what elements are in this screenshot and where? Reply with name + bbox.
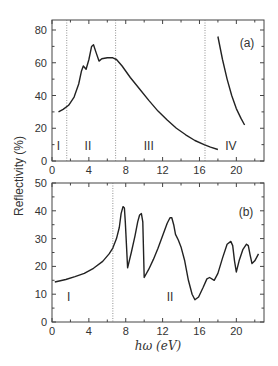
y-tick-label: 60 [35, 57, 47, 69]
region-label: I [57, 139, 60, 153]
x-axis-title: hω (eV) [135, 339, 182, 353]
y-tick-label: 0 [41, 155, 47, 167]
region-label: II [167, 290, 174, 304]
x-tick-label: 4 [86, 325, 92, 337]
y-tick-label: 30 [35, 233, 47, 245]
x-tick-label: 0 [49, 325, 55, 337]
y-tick-label: 40 [35, 90, 47, 102]
panel-a: 048121620020406080IIIIIIIV [35, 20, 264, 176]
x-tick-label: 16 [193, 164, 205, 176]
x-tick-label: 4 [86, 164, 92, 176]
x-tick-label: 12 [156, 164, 168, 176]
y-tick-label: 40 [35, 205, 47, 217]
reflectivity-chart: 048121620020406080IIIIIIIV 0481216200102… [0, 0, 278, 366]
x-tick-label: 12 [156, 325, 168, 337]
region-label: IV [225, 139, 236, 153]
x-tick-label: 0 [49, 164, 55, 176]
panel-b-label: (b) [239, 205, 254, 219]
panel-b: 04812162001020304050III [35, 177, 264, 337]
x-tick-label: 20 [230, 325, 242, 337]
x-tick-label: 8 [123, 325, 129, 337]
region-label: I [67, 290, 70, 304]
y-tick-label: 0 [41, 316, 47, 328]
data-line [55, 207, 259, 300]
y-tick-label: 10 [35, 288, 47, 300]
panel-a-label: (a) [240, 36, 255, 50]
region-label: III [144, 139, 154, 153]
plot-frame [52, 183, 264, 322]
x-tick-label: 20 [230, 164, 242, 176]
x-tick-label: 8 [123, 164, 129, 176]
y-tick-label: 20 [35, 122, 47, 134]
y-axis-title: Reflectivity (%) [12, 136, 26, 216]
y-tick-label: 50 [35, 177, 47, 189]
region-label: II [85, 139, 92, 153]
y-tick-label: 20 [35, 260, 47, 272]
y-tick-label: 80 [35, 24, 47, 36]
x-tick-label: 16 [193, 325, 205, 337]
data-line [59, 45, 218, 150]
